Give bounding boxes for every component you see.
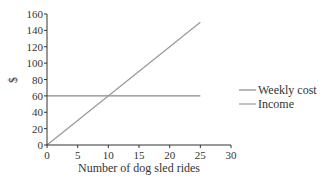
line-chart: 020406080100120140160 051015202530 $ Num…: [0, 0, 322, 184]
x-tick-label: 15: [134, 149, 146, 161]
x-tick-label: 0: [44, 149, 50, 161]
y-tick-label: 40: [32, 106, 44, 118]
y-tick-label: 140: [27, 24, 44, 36]
legend-label-weekly-cost: Weekly cost: [258, 83, 317, 97]
y-tick-label: 60: [32, 90, 44, 102]
legend: Weekly cost Income: [239, 83, 317, 111]
y-tick-label: 0: [38, 139, 44, 151]
x-tick-label: 25: [195, 149, 207, 161]
legend-item-income: Income: [239, 97, 294, 111]
legend-item-weekly-cost: Weekly cost: [239, 83, 317, 97]
legend-label-income: Income: [258, 97, 294, 111]
x-tick-label: 5: [75, 149, 81, 161]
x-tick-label: 10: [103, 149, 115, 161]
plot-lines: [47, 22, 200, 145]
y-tick-label: 120: [27, 41, 44, 53]
x-ticks: 051015202530: [44, 145, 237, 161]
y-ticks: 020406080100120140160: [27, 8, 48, 151]
x-tick-label: 20: [164, 149, 176, 161]
y-tick-label: 100: [27, 57, 44, 69]
y-tick-label: 160: [27, 8, 44, 20]
y-axis-label: $: [6, 77, 20, 83]
series-line-income: [47, 22, 200, 145]
y-tick-label: 20: [32, 123, 44, 135]
axes: [47, 14, 231, 145]
x-tick-label: 30: [226, 149, 238, 161]
y-tick-label: 80: [32, 74, 44, 86]
x-axis-label: Number of dog sled rides: [78, 161, 200, 175]
